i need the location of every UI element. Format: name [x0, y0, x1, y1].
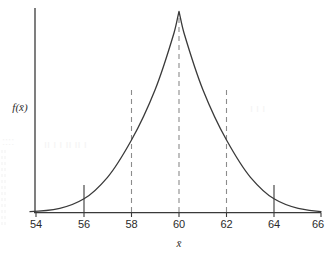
x-tick-label-54: 54 — [30, 218, 42, 230]
bleed-text-right: ı ı ı — [250, 102, 265, 114]
bleed-text-left: :::: — [2, 135, 14, 147]
x-tick-label-64: 64 — [268, 218, 280, 230]
x-tick-label-56: 56 — [78, 218, 90, 230]
normal-curve — [30, 11, 321, 211]
scan-artifacts: :::: ıı ı ı ıı ıı ı ı ı ı — [2, 102, 265, 228]
y-axis-label: f(x̄) — [12, 101, 28, 114]
bleed-dashed-edge — [2, 150, 5, 228]
x-tick-label-62: 62 — [220, 218, 232, 230]
x-axis-label: x̄ — [176, 237, 182, 249]
x-tick-label-66: 66 — [312, 218, 324, 230]
x-tick-label-58: 58 — [125, 218, 137, 230]
chart-svg: :::: ıı ı ı ıı ıı ı ı ı ı — [0, 0, 333, 255]
normal-distribution-figure: :::: ıı ı ı ıı ıı ı ı ı ı — [0, 0, 333, 255]
bleed-text-mid: ıı ı ı ıı ıı ı — [44, 138, 87, 150]
x-axis-tick-labels-group: 54 56 58 60 62 64 66 — [30, 218, 324, 230]
x-axis-ticks-group — [36, 213, 321, 217]
x-tick-label-60: 60 — [173, 218, 185, 230]
